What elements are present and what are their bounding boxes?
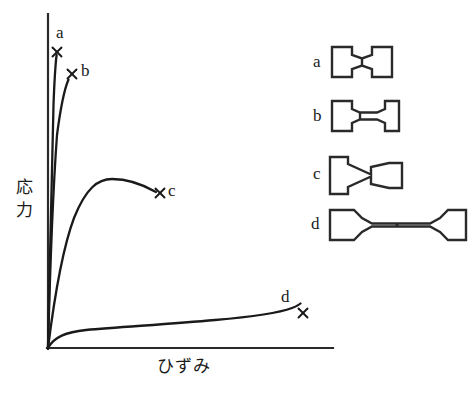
curve-label-a: a <box>56 24 64 41</box>
specimen-shape-b <box>332 101 399 131</box>
specimen-label-d: d <box>311 215 320 232</box>
specimen-label-b: b <box>313 107 322 124</box>
curve-label-d: d <box>281 288 290 305</box>
specimen-shape-c <box>330 157 402 194</box>
specimen-label-c: c <box>313 165 321 182</box>
stress-axis-label: 応力 <box>14 178 31 224</box>
curve-label-c: c <box>168 182 176 199</box>
stress-strain-figure: a b c d a b c d 応力 ひずみ <box>0 0 472 396</box>
specimen-shape-d <box>330 210 466 240</box>
specimen-label-a: a <box>313 53 321 70</box>
curve-label-b: b <box>81 62 90 79</box>
specimen-shape-a <box>332 47 392 77</box>
strain-axis-label: ひずみ <box>157 358 211 375</box>
specimen-diagrams-svg <box>0 0 472 396</box>
